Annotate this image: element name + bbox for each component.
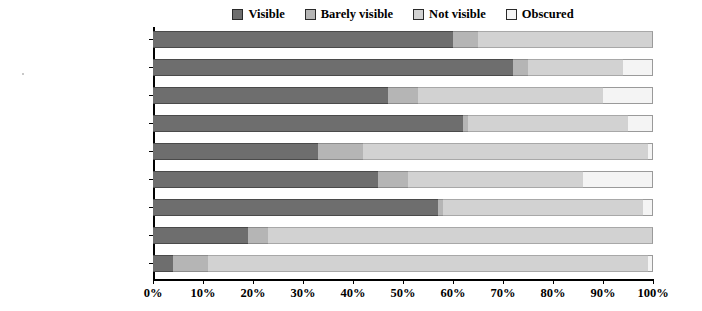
bar-row: Developed and urban land [153, 195, 653, 223]
x-axis-tick [353, 279, 354, 284]
x-axis-tick [553, 279, 554, 284]
stacked-bar [153, 143, 653, 160]
stacked-bar [153, 87, 653, 104]
bar-segment [153, 115, 463, 132]
x-axis-tick [153, 279, 154, 284]
stacked-bar [153, 31, 653, 48]
legend-item: Not visible [413, 8, 486, 21]
legend-item: Obscured [506, 8, 574, 21]
bar-segment [603, 87, 653, 104]
legend-swatch-icon [232, 9, 243, 20]
bar-row: Semi-natural land [153, 83, 653, 111]
stacked-bar [153, 199, 653, 216]
x-axis-tick [503, 279, 504, 284]
bar-segment [453, 31, 478, 48]
x-axis-tick [253, 279, 254, 284]
bar-segment [513, 59, 528, 76]
bar-segment [153, 143, 318, 160]
image-speck [22, 73, 24, 75]
stacked-bar [153, 59, 653, 76]
x-axis-tick [403, 279, 404, 284]
x-axis-tick [203, 279, 204, 284]
bar-row: Pasture land [153, 139, 653, 167]
bar-segment [648, 255, 653, 272]
stacked-bar [153, 227, 653, 244]
bar-segment [628, 115, 653, 132]
bar-segment [418, 87, 603, 104]
stacked-bar [153, 115, 653, 132]
bar-segment [378, 171, 408, 188]
legend-swatch-icon [413, 9, 424, 20]
bar-segment [153, 59, 513, 76]
bar-segment [583, 171, 653, 188]
bar-row: Coastal land [153, 223, 653, 251]
bar-row: Unclassified [153, 55, 653, 83]
bar-segment [208, 255, 648, 272]
bar-segment [153, 227, 248, 244]
bar-segment [153, 87, 388, 104]
bar-segment [648, 143, 653, 160]
bar-segment [248, 227, 268, 244]
bar-segment [443, 199, 643, 216]
stacked-bar [153, 171, 653, 188]
legend-label: Visible [248, 8, 284, 21]
bar-row: Wetland [153, 27, 653, 55]
stacked-bar-chart: VisibleBarely visibleNot visibleObscured… [0, 0, 702, 311]
stacked-bar [153, 255, 653, 272]
chart-legend: VisibleBarely visibleNot visibleObscured [153, 4, 653, 24]
bar-segment [478, 31, 653, 48]
x-axis-tick [453, 279, 454, 284]
bar-segment [153, 199, 438, 216]
legend-label: Barely visible [321, 8, 393, 21]
bar-segment [388, 87, 418, 104]
bar-segment [153, 255, 173, 272]
bar-segment [318, 143, 363, 160]
legend-swatch-icon [506, 9, 517, 20]
bar-segment [268, 227, 653, 244]
x-axis-tick [603, 279, 604, 284]
legend-item: Barely visible [305, 8, 393, 21]
bar-segment [173, 255, 208, 272]
bar-row: Forestry [153, 167, 653, 195]
legend-item: Visible [232, 8, 284, 21]
legend-label: Not visible [429, 8, 486, 21]
x-axis-label: 100% [623, 286, 683, 301]
bar-row: Rivers and lakes [153, 111, 653, 139]
bar-segment [528, 59, 623, 76]
bar-segment [408, 171, 583, 188]
bar-segment [153, 31, 453, 48]
bar-row: Arable land [153, 251, 653, 279]
legend-swatch-icon [305, 9, 316, 20]
legend-label: Obscured [522, 8, 574, 21]
x-axis-tick [303, 279, 304, 284]
x-axis-tick [653, 279, 654, 284]
bar-segment [153, 171, 378, 188]
bar-segment [468, 115, 628, 132]
bar-segment [623, 59, 653, 76]
plot-area: WetlandUnclassifiedSemi-natural landRive… [153, 27, 653, 279]
bar-segment [643, 199, 653, 216]
bar-segment [363, 143, 648, 160]
